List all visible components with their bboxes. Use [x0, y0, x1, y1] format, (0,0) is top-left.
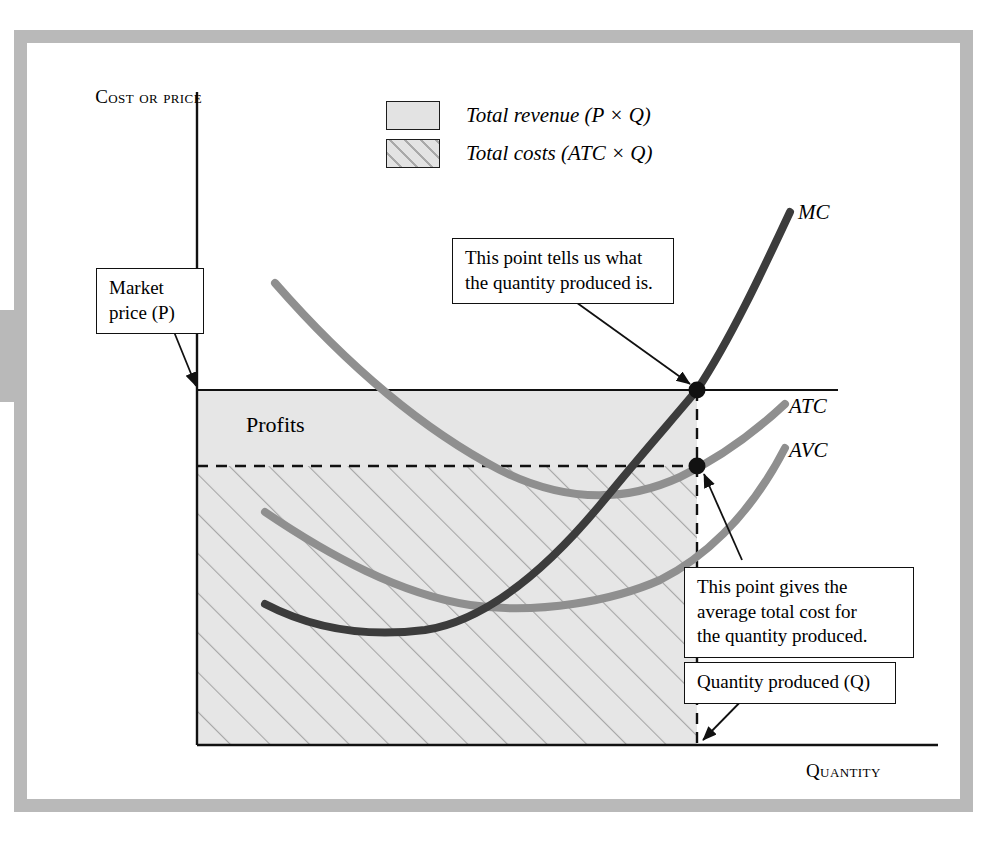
callout-quantity-point: This point tells us what the quantity pr…	[452, 238, 674, 304]
atc-curve-label: ATC	[789, 394, 827, 419]
figure-container: Cost or price Quantity MC ATC AVC Profit…	[0, 0, 997, 846]
profit-max-output-point	[689, 382, 706, 399]
y-axis-label: Cost or price	[92, 86, 202, 108]
callout-atc-point: This point gives the average total cost …	[684, 567, 914, 658]
legend-swatch-total-costs	[386, 139, 440, 168]
legend-label-total-revenue: Total revenue (P × Q)	[466, 103, 651, 128]
quantity-point-leader	[573, 300, 690, 384]
mc-curve-label: MC	[798, 200, 830, 225]
legend-item-total-costs: Total costs (ATC × Q)	[386, 134, 652, 172]
legend: Total revenue (P × Q) Total costs (ATC ×…	[386, 96, 652, 172]
profits-region-label: Profits	[246, 412, 305, 438]
callout-quantity-produced: Quantity produced (Q)	[684, 662, 896, 704]
x-axis-label: Quantity	[806, 760, 881, 782]
callout-market-price: Market price (P)	[96, 268, 204, 334]
atc-at-quantity-point	[689, 458, 706, 475]
avc-curve-label: AVC	[789, 438, 828, 463]
legend-item-total-revenue: Total revenue (P × Q)	[386, 96, 652, 134]
legend-label-total-costs: Total costs (ATC × Q)	[466, 141, 652, 166]
legend-swatch-total-revenue	[386, 101, 440, 130]
